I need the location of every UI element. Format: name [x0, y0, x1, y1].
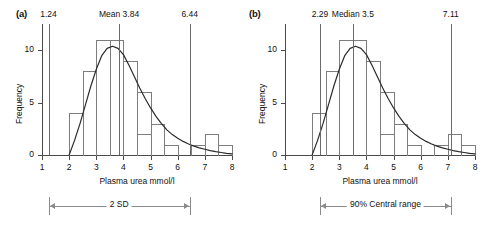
- range-arrow-left: [321, 203, 326, 209]
- range-arrow-left: [50, 203, 55, 209]
- reference-line: [49, 24, 50, 155]
- reference-line: [353, 24, 354, 155]
- distribution-curve: [243, 0, 486, 229]
- reference-line-label: Mean 3.84: [99, 9, 139, 19]
- reference-line: [320, 24, 321, 155]
- range-annotation: 90% Central range: [243, 197, 486, 223]
- reference-line: [190, 24, 191, 155]
- panel-a-plot: 051012345678Plasma urea mmol/lFrequency1…: [0, 0, 243, 229]
- range-cap-right: [190, 197, 191, 215]
- range-label: 2 SD: [107, 199, 132, 209]
- reference-line: [451, 24, 452, 155]
- reference-line-label: 1.24: [40, 9, 57, 19]
- panel-a: (a) 051012345678Plasma urea mmol/lFreque…: [0, 0, 243, 229]
- panel-b: (b) 051012345678Plasma urea mmol/lFreque…: [243, 0, 486, 229]
- reference-line-label: 6.44: [181, 9, 198, 19]
- panel-b-plot: 051012345678Plasma urea mmol/lFrequency2…: [243, 0, 486, 229]
- range-arrow-right: [184, 203, 189, 209]
- range-arrow-right: [445, 203, 450, 209]
- reference-line: [119, 24, 120, 155]
- reference-line-label: 7.11: [443, 9, 459, 19]
- range-cap-right: [451, 197, 452, 215]
- statistics-figure: (a) 051012345678Plasma urea mmol/lFreque…: [0, 0, 486, 229]
- distribution-curve: [0, 0, 243, 229]
- reference-line-label: 2.29: [312, 9, 329, 19]
- range-label: 90% Central range: [347, 199, 424, 209]
- range-annotation: 2 SD: [0, 197, 243, 223]
- reference-line-label: Median 3.5: [332, 9, 374, 19]
